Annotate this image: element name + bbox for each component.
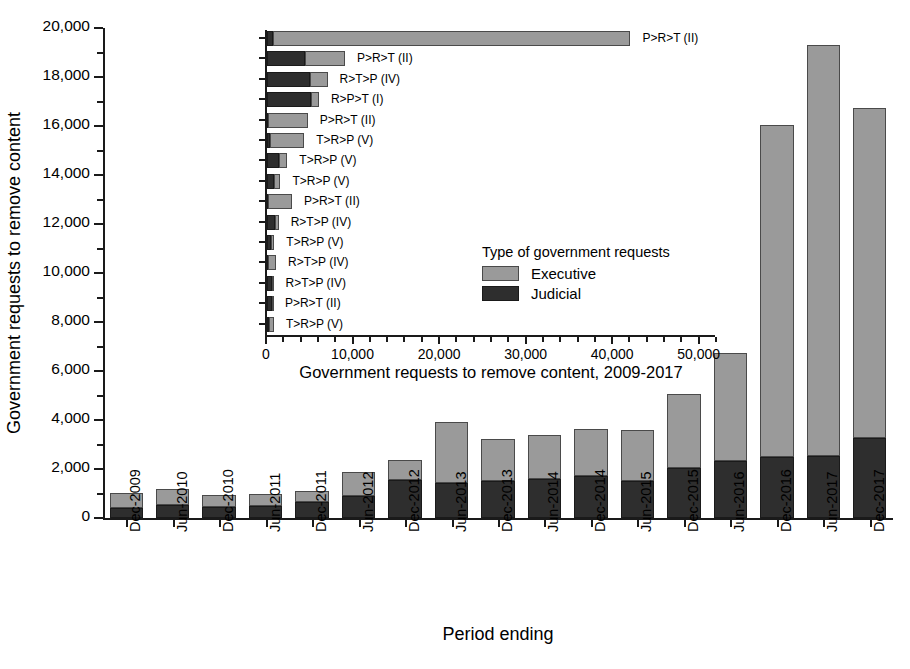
main-x-axis-label: Period ending — [103, 624, 893, 645]
bar-segment-executive — [760, 125, 793, 457]
inset-y-tick — [259, 323, 267, 325]
inset-annotation: P>R>T (II) — [285, 296, 341, 310]
inset-segment-executive — [273, 31, 630, 46]
inset-y-tick — [259, 119, 267, 121]
inset-segment-executive — [274, 174, 280, 189]
inset-plot-area: Russian FederationP>R>T (II)TurkeyP>R>T … — [137, 22, 715, 352]
tick-mark — [577, 337, 579, 342]
inset-bar — [267, 133, 304, 148]
inset-x-tick-label: 40,000 — [591, 346, 634, 362]
tick-mark — [698, 337, 700, 344]
inset-y-tick — [259, 78, 267, 80]
main-x-tick-label: Dec-2009 — [127, 469, 143, 532]
inset-x-tick-label: 50,000 — [677, 346, 720, 362]
tick-mark — [421, 337, 423, 342]
inset-y-tick — [259, 37, 267, 39]
inset-x-tick-label: 20,000 — [418, 346, 461, 362]
inset-bar — [267, 296, 273, 311]
inset-segment-executive — [270, 133, 304, 148]
inset-bar — [267, 31, 630, 46]
inset-segment-executive — [272, 296, 274, 311]
tick-mark — [559, 337, 561, 342]
inset-segment-judicial — [267, 72, 310, 87]
inset-bar — [267, 72, 328, 87]
bar-segment-executive — [853, 108, 886, 438]
legend-title: Type of government requests — [482, 244, 670, 260]
tick-mark — [97, 199, 103, 201]
main-x-tick-label: Jun-2015 — [638, 472, 654, 532]
inset-annotation: T>R>P (V) — [286, 235, 343, 249]
main-x-tick-label: Jun-2010 — [174, 472, 190, 532]
inset-y-tick — [259, 57, 267, 59]
tick-mark — [352, 337, 354, 344]
inset-y-tick — [259, 180, 267, 182]
inset-bar — [267, 235, 274, 250]
bar-segment-executive — [807, 45, 840, 456]
bar-segment-executive — [667, 394, 700, 468]
main-x-tick-label: Jun-2013 — [453, 472, 469, 532]
inset-bar — [267, 215, 279, 230]
legend-item-executive: Executive — [482, 265, 670, 282]
inset-segment-judicial — [267, 174, 274, 189]
inset-segment-executive — [305, 51, 345, 66]
inset-x-tick-label: 10,000 — [331, 346, 374, 362]
main-y-axis-label: Government requests to remove content — [4, 112, 25, 434]
main-x-tick-label: Dec-2011 — [313, 470, 329, 532]
inset-y-tick — [259, 139, 267, 141]
tick-mark — [300, 337, 302, 342]
tick-mark — [94, 419, 103, 421]
inset-annotation: T>R>P (V) — [316, 133, 373, 147]
tick-mark — [94, 125, 103, 127]
main-y-tick-label: 14,000 — [43, 164, 90, 182]
inset-y-tick — [259, 159, 267, 161]
tick-mark — [334, 337, 336, 342]
legend-label-executive: Executive — [531, 265, 596, 282]
main-y-axis-label-wrap: Government requests to remove content — [28, 28, 30, 518]
inset-segment-executive — [271, 235, 274, 250]
inset-segment-judicial — [267, 92, 311, 107]
tick-mark — [386, 337, 388, 342]
inset-y-tick — [259, 200, 267, 202]
main-x-tick-label: Jun-2011 — [267, 473, 283, 532]
main-x-tick-label: Dec-2017 — [871, 469, 887, 532]
tick-mark — [628, 337, 630, 342]
main-x-tick-label: Jun-2012 — [360, 472, 376, 532]
main-x-tick-label: Dec-2013 — [499, 469, 515, 532]
inset-y-tick — [259, 241, 267, 243]
tick-mark — [94, 321, 103, 323]
inset-bar — [267, 92, 319, 107]
tick-mark — [97, 493, 103, 495]
inset-bar — [267, 317, 274, 332]
inset-annotation: R>T>P (IV) — [291, 215, 351, 229]
tick-mark — [594, 337, 596, 342]
inset-y-tick — [259, 282, 267, 284]
tick-mark — [455, 337, 457, 342]
inset-annotation: T>R>P (V) — [286, 317, 343, 331]
tick-mark — [265, 337, 267, 344]
main-y-tick-label: 10,000 — [43, 262, 90, 280]
inset-x-tick-label: 0 — [262, 346, 270, 362]
main-bar — [807, 45, 840, 518]
main-y-tick-label: 12,000 — [43, 213, 90, 231]
legend-swatch-judicial — [482, 286, 519, 301]
inset-annotation: P>R>T (II) — [642, 31, 698, 45]
inset-y-tick — [259, 261, 267, 263]
tick-mark — [369, 337, 371, 342]
inset-annotation: T>R>P (V) — [299, 153, 356, 167]
inset-x-axis-label: Government requests to remove content, 2… — [265, 363, 717, 382]
tick-mark — [525, 337, 527, 344]
inset-segment-judicial — [267, 153, 279, 168]
inset-annotation: P>R>T (II) — [357, 51, 413, 65]
main-bar — [853, 108, 886, 518]
tick-mark — [94, 517, 103, 519]
inset-y-tick — [259, 98, 267, 100]
main-x-tick-label: Jun-2017 — [824, 472, 840, 532]
inset-segment-executive — [311, 92, 319, 107]
inset-bar — [267, 113, 308, 128]
main-bar — [760, 125, 793, 518]
tick-mark — [97, 297, 103, 299]
tick-mark — [94, 468, 103, 470]
main-y-tick-label: 16,000 — [43, 115, 90, 133]
inset-segment-executive — [268, 255, 276, 270]
tick-mark — [542, 337, 544, 342]
